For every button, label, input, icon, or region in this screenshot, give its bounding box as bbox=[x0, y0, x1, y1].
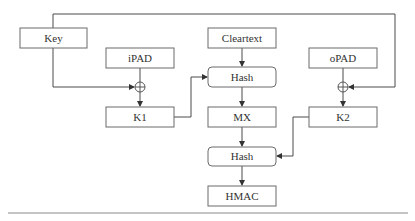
hmac-diagram: Key iPAD K1 Cleartext Hash MX Hash HMAC … bbox=[0, 0, 415, 221]
node-hmac-label: HMAC bbox=[225, 190, 258, 202]
node-hash-1-label: Hash bbox=[231, 71, 254, 83]
node-k2: K2 bbox=[309, 107, 377, 127]
node-k2-label: K2 bbox=[336, 111, 349, 123]
node-cleartext: Cleartext bbox=[208, 28, 276, 48]
node-hash-2: Hash bbox=[208, 147, 276, 166]
node-mx-label: MX bbox=[233, 111, 251, 123]
node-hmac: HMAC bbox=[208, 186, 276, 206]
node-ipad-label: iPAD bbox=[128, 52, 152, 64]
edge-k2-to-hash2 bbox=[277, 117, 309, 156]
node-mx: MX bbox=[208, 107, 276, 127]
node-key-label: Key bbox=[44, 32, 63, 44]
node-hash-2-label: Hash bbox=[231, 150, 254, 162]
xor-icon-1 bbox=[135, 82, 145, 92]
node-k1-label: K1 bbox=[133, 111, 146, 123]
node-ipad: iPAD bbox=[106, 48, 174, 68]
node-opad: oPAD bbox=[309, 48, 377, 68]
node-hash-1: Hash bbox=[208, 67, 276, 87]
edge-k1-to-hash1 bbox=[174, 77, 207, 117]
node-opad-label: oPAD bbox=[330, 52, 357, 64]
xor-icon-2 bbox=[338, 82, 348, 92]
node-k1: K1 bbox=[106, 107, 174, 127]
node-key: Key bbox=[20, 28, 87, 48]
node-cleartext-label: Cleartext bbox=[222, 32, 262, 44]
